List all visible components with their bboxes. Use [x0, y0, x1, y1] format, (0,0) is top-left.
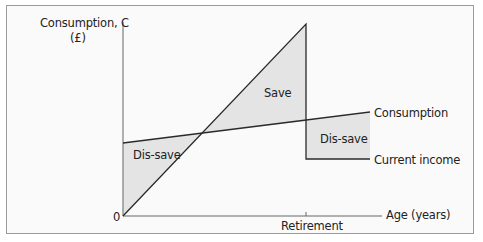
y-axis-label-line1: Consumption, C: [40, 16, 129, 30]
dissave-early-label: Dis-save: [133, 148, 181, 162]
origin-label: 0: [113, 210, 120, 224]
dissave-late-label: Dis-save: [320, 132, 368, 146]
retirement-label: Retirement: [281, 219, 343, 233]
x-axis-label: Age (years): [386, 208, 450, 222]
save-label: Save: [264, 86, 291, 100]
consumption-label: Consumption: [374, 106, 448, 120]
current-income-label: Current income: [374, 153, 460, 167]
y-axis-label-line2: (£): [70, 31, 86, 45]
